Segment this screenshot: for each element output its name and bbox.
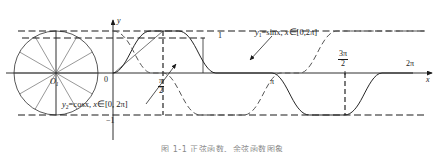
figure-caption: 图 1-1 正弦函数、余弦函数图象 [0,143,445,152]
x-tick-pi-over-2: π 2 [158,77,164,95]
x-tick-pi: π [270,78,274,86]
circle-to-curve-connector [114,31,163,73]
y-axis-label: y [117,17,121,25]
sine-annotation-leader [250,36,272,60]
cosine-label-equation: =cosx, [69,99,92,109]
sine-label-domain: ∈[0,2π] [289,27,318,37]
trig-graph-svg [0,0,445,152]
x-tick-3pi-over-2: 3π 2 [338,50,348,68]
circle-center-subscript: 1 [56,81,59,87]
y-tick-negative-one: −1 [106,117,115,125]
sine-label-subscript: 1 [259,32,262,38]
three-pi-over-2-numerator: 3π [338,50,348,58]
x-tick-2pi: 2π [406,60,414,68]
three-pi-over-2-denominator: 2 [338,60,348,68]
x-axis-label: x [426,76,430,84]
pi-over-2-denominator: 2 [158,87,164,95]
sine-label-equation: =sinx, [262,27,283,37]
three-pi-over-2-fraction: 3π 2 [338,50,348,68]
cosine-label-domain: ∈[0, 2π] [97,99,128,109]
cosine-annotation-label: y2=cosx, x∈[0, 2π] [62,100,128,109]
cosine-label-subscript: 2 [66,104,69,110]
trig-figure: y x 0 O1 1 −1 π 2 π 3π 2 2π y1=sinx, x∈[… [0,0,445,152]
circle-center-letter: O [50,77,56,86]
pi-over-2-numerator: π [158,77,164,85]
y-tick-positive-one: 1 [218,32,222,40]
origin-label: 0 [104,76,108,84]
circle-center-label: O1 [50,78,59,86]
sine-annotation-label: y1=sinx, x∈[0,2π] [255,28,317,37]
pi-over-2-fraction: π 2 [158,77,164,95]
